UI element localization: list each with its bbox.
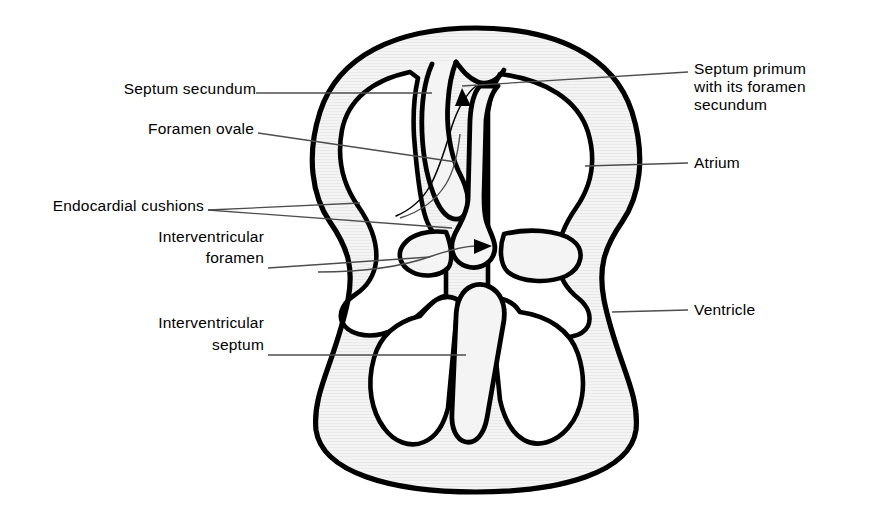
endocardial-cushion-right xyxy=(400,232,451,276)
label-interventricular-septum-line1: Interventricular xyxy=(60,314,264,332)
label-interventricular-foramen-line1: Interventricular xyxy=(60,228,264,246)
label-septum-secundum: Septum secundum xyxy=(58,80,256,98)
label-foramen-ovale: Foramen ovale xyxy=(58,120,254,138)
label-endocardial-cushions: Endocardial cushions xyxy=(10,197,204,215)
label-ventricle: Ventricle xyxy=(694,301,755,319)
label-interventricular-septum-line2: septum xyxy=(60,336,264,354)
label-atrium: Atrium xyxy=(694,154,740,172)
label-septum-primum-line2: with its foramen xyxy=(694,78,806,96)
endocardial-cushion-left xyxy=(501,231,581,281)
label-septum-primum-line3: secundum xyxy=(694,96,767,114)
leader-ventricle xyxy=(612,310,688,312)
label-septum-primum-line1: Septum primum xyxy=(694,60,806,78)
label-interventricular-foramen-line2: foramen xyxy=(60,249,264,267)
